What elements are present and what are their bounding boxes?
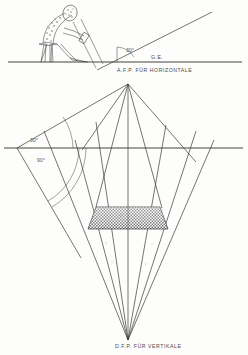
horizontal-vanishing-point-label: A.F.P. FÜR HORIZONTALE: [117, 68, 192, 73]
angle-label-90: 90°: [37, 158, 45, 163]
ray-dfp-inner-right: [128, 125, 166, 340]
sight-ray-line: [97, 12, 212, 70]
ray-apex-to-object-right: [128, 84, 162, 208]
ray-dfp-left: [75, 140, 128, 340]
head: [61, 3, 79, 23]
ray-apex-left-far: [82, 84, 128, 150]
draftsman-figure: [39, 3, 89, 62]
ray-dfp-outer-right: [128, 140, 214, 340]
object-trapezoid: [88, 207, 168, 229]
perspective-diagram: [0, 0, 248, 355]
angle-arc-30-bottom: [63, 117, 73, 148]
oblique-90-line: [17, 148, 81, 258]
angle-label-30-top: 30°: [126, 48, 134, 53]
angle-arc-90: [52, 148, 86, 207]
lower-scene-group: [4, 84, 243, 340]
easel-board-edge-left: [73, 22, 96, 68]
angle-arc-90-inner: [48, 148, 79, 201]
ray-apex-to-object-left: [96, 84, 128, 207]
ray-dfp-right: [128, 131, 196, 340]
ground-edge-label: G.E.: [151, 55, 164, 60]
ray-apex-right-far: [128, 84, 196, 162]
drawing-sheet: 30° G.E. A.F.P. FÜR HORIZONTALE 30° 90° …: [0, 0, 248, 355]
vertical-vanishing-point-label: D.F.P. FÜR VERTIKALE: [115, 344, 181, 349]
ray-dfp-outer-left: [44, 131, 128, 340]
easel-board-edge-right: [81, 19, 103, 64]
angle-label-30-horizon: 30°: [30, 138, 38, 143]
upper-scene-group: [8, 3, 242, 70]
ray-dfp-inner-left: [96, 122, 128, 340]
